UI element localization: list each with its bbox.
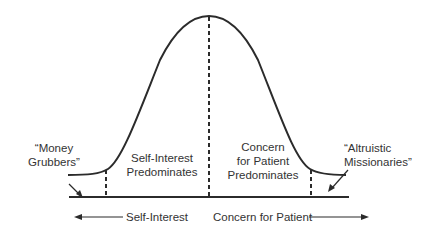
label-line: Predominates <box>216 168 310 182</box>
label-line: Concern <box>216 140 310 154</box>
altruistic-missionaries-label: “Altruistic Missionaries” <box>344 141 414 169</box>
label-line: Self-Interest <box>112 151 212 165</box>
label-line: “Altruistic <box>344 141 414 155</box>
label-line: Grubbers” <box>14 155 94 169</box>
self-interest-predominates-label: Self-Interest Predominates <box>112 151 212 179</box>
axis-label-concern-for-patient: Concern for Patient <box>213 210 312 224</box>
axis-label-self-interest: Self-Interest <box>126 210 188 224</box>
money-grubbers-label: “Money Grubbers” <box>14 141 94 169</box>
label-line: for Patient <box>216 154 310 168</box>
concern-for-patient-predominates-label: Concern for Patient Predominates <box>216 140 310 182</box>
self-interest-arrowhead <box>74 214 82 220</box>
bell-curve-diagram <box>0 0 422 236</box>
label-line: Predominates <box>112 165 212 179</box>
label-line: Missionaries” <box>344 155 414 169</box>
right-pointer-arrow <box>332 170 348 188</box>
concern-arrowhead <box>361 214 369 220</box>
label-line: “Money <box>14 141 94 155</box>
